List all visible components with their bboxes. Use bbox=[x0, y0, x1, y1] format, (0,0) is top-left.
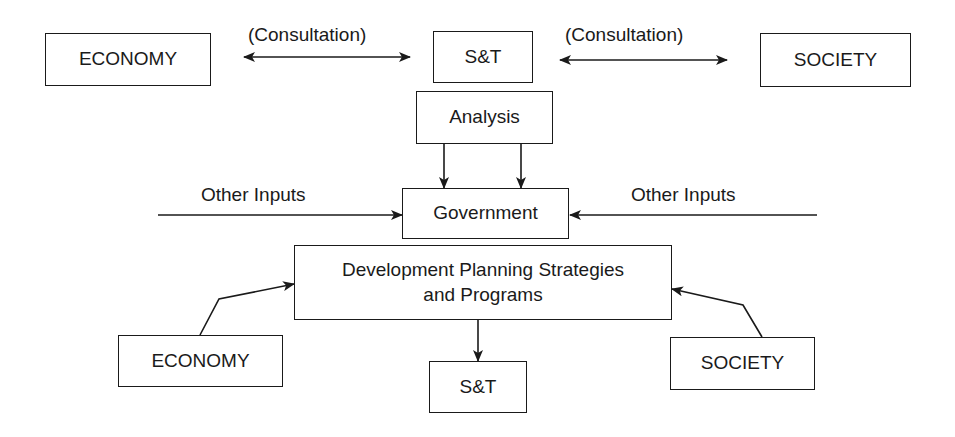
consultation-label-right: (Consultation) bbox=[565, 24, 683, 46]
planning-label-line1: Development Planning Strategies bbox=[342, 258, 624, 283]
economy-label-bottom: ECONOMY bbox=[151, 349, 249, 374]
consultation-label-left: (Consultation) bbox=[248, 24, 366, 46]
st-label-bottom: S&T bbox=[460, 375, 497, 400]
society-box-bottom: SOCIETY bbox=[670, 337, 815, 390]
society-label-bottom: SOCIETY bbox=[701, 351, 784, 376]
planning-label-line2: and Programs bbox=[423, 283, 542, 308]
planning-box: Development Planning Strategies and Prog… bbox=[294, 245, 672, 320]
society-label-top: SOCIETY bbox=[794, 48, 877, 73]
economy-to-planning-arrow bbox=[200, 284, 294, 335]
society-box-top: SOCIETY bbox=[760, 33, 911, 87]
analysis-label: Analysis bbox=[449, 105, 520, 130]
society-to-planning-arrow bbox=[672, 289, 762, 337]
st-box-bottom: S&T bbox=[429, 361, 527, 413]
other-inputs-right-label: Other Inputs bbox=[631, 184, 736, 206]
government-label: Government bbox=[433, 201, 538, 226]
government-box: Government bbox=[402, 188, 569, 239]
other-inputs-left-label: Other Inputs bbox=[201, 184, 306, 206]
st-box-top: S&T bbox=[433, 31, 533, 83]
analysis-box: Analysis bbox=[416, 91, 553, 144]
st-label-top: S&T bbox=[465, 45, 502, 70]
economy-box-bottom: ECONOMY bbox=[118, 335, 283, 387]
economy-box-top: ECONOMY bbox=[45, 33, 211, 86]
economy-label-top: ECONOMY bbox=[79, 47, 177, 72]
